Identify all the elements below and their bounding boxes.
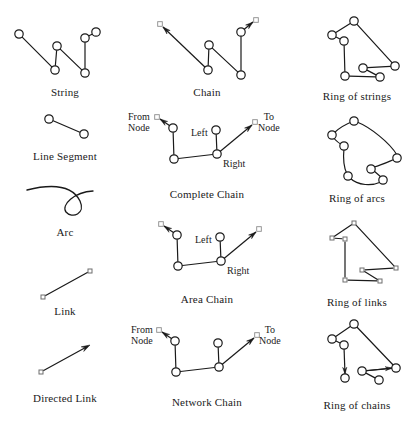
figure-link	[41, 269, 92, 299]
figure-complete-chain	[155, 115, 258, 164]
caption-ring-of-arcs: Ring of arcs	[329, 192, 385, 204]
figure-network-chain	[157, 328, 260, 376]
annotation-area-chain-1: Right	[227, 266, 249, 277]
annotation-area-chain-0: Left	[195, 235, 212, 246]
caption-link: Link	[54, 305, 76, 317]
figure-ring-of-strings	[328, 17, 399, 81]
annotation-complete-chain-1: Left	[191, 128, 208, 139]
caption-line-segment: Line Segment	[33, 150, 97, 162]
figure-ring-of-arcs	[328, 117, 401, 185]
caption-ring-of-chains: Ring of chains	[324, 399, 391, 411]
figure-ring-of-links	[330, 221, 398, 283]
diagram-canvas	[0, 0, 414, 422]
caption-ring-of-strings: Ring of strings	[323, 90, 391, 102]
annotation-complete-chain-3: ToNode	[258, 112, 280, 133]
annotation-complete-chain-0: FromNode	[128, 112, 150, 133]
caption-complete-chain: Complete Chain	[170, 188, 245, 200]
annotation-network-chain-1: ToNode	[259, 325, 281, 346]
caption-ring-of-links: Ring of links	[327, 296, 387, 308]
caption-area-chain: Area Chain	[181, 293, 233, 305]
figure-arc	[27, 187, 93, 216]
figure-page: StringLine SegmentArcLinkDirected LinkCh…	[0, 0, 414, 422]
figure-chain	[158, 18, 259, 80]
caption-string: String	[51, 86, 79, 98]
figure-directed-link	[39, 345, 90, 374]
caption-arc: Arc	[56, 226, 73, 238]
figure-area-chain	[159, 222, 262, 270]
figure-string	[15, 28, 100, 77]
annotation-complete-chain-2: Right	[223, 159, 245, 170]
caption-chain: Chain	[193, 86, 220, 98]
figure-line-segment	[45, 115, 88, 138]
annotation-network-chain-0: FromNode	[131, 325, 153, 346]
caption-directed-link: Directed Link	[33, 392, 97, 404]
figure-ring-of-chains	[328, 320, 400, 384]
caption-network-chain: Network Chain	[172, 396, 242, 408]
